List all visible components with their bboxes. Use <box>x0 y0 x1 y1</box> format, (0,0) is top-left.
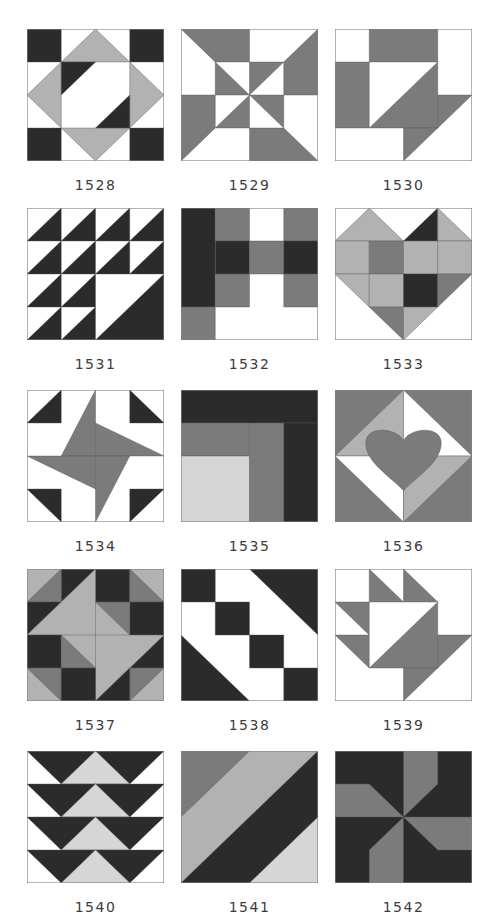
quilt-patch <box>369 29 438 62</box>
quilt-block-pattern <box>335 390 472 522</box>
quilt-block-pattern <box>181 29 318 161</box>
quilt-patch <box>27 29 61 62</box>
quilt-block-pattern <box>181 569 318 701</box>
quilt-patch <box>250 423 284 522</box>
quilt-patch <box>96 569 130 602</box>
quilt-block-pattern <box>27 569 164 701</box>
quilt-block-1530 <box>335 29 472 161</box>
quilt-block-pattern <box>335 29 472 161</box>
quilt-block-pattern <box>27 751 164 883</box>
quilt-block-pattern <box>27 390 164 522</box>
block-number-label: 1531 <box>27 356 164 372</box>
quilt-block-1541 <box>181 751 318 883</box>
quilt-block-pattern <box>181 390 318 522</box>
quilt-patch <box>215 274 249 307</box>
block-number-label: 1529 <box>181 177 318 193</box>
quilt-patch <box>130 128 164 161</box>
block-number-label: 1536 <box>335 538 472 554</box>
quilt-patch <box>61 668 95 701</box>
quilt-block-1532 <box>181 208 318 340</box>
quilt-patch <box>438 241 472 274</box>
quilt-patch <box>335 62 369 128</box>
quilt-block-1537 <box>27 569 164 701</box>
quilt-block-1528 <box>27 29 164 161</box>
quilt-patch <box>284 274 318 307</box>
block-number-label: 1542 <box>335 899 472 915</box>
quilt-block-1539 <box>335 569 472 701</box>
quilt-block-1542 <box>335 751 472 883</box>
quilt-block-pattern <box>335 208 472 340</box>
quilt-patch <box>215 241 249 274</box>
quilt-block-pattern <box>335 751 472 883</box>
quilt-block-1540 <box>27 751 164 883</box>
block-number-label: 1532 <box>181 356 318 372</box>
quilt-block-pattern <box>27 208 164 340</box>
quilt-patch <box>27 635 61 668</box>
block-number-label: 1538 <box>181 717 318 733</box>
quilt-block-1531 <box>27 208 164 340</box>
quilt-block-1534 <box>27 390 164 522</box>
quilt-block-1538 <box>181 569 318 701</box>
quilt-patch <box>181 208 215 307</box>
quilt-patch <box>181 569 215 602</box>
quilt-patch <box>404 274 438 307</box>
quilt-patch <box>181 423 250 456</box>
block-number-label: 1540 <box>27 899 164 915</box>
quilt-patch <box>250 635 284 668</box>
quilt-patch <box>181 307 215 340</box>
quilt-block-1529 <box>181 29 318 161</box>
quilt-patch <box>335 241 369 274</box>
quilt-patch <box>215 602 249 635</box>
block-number-label: 1534 <box>27 538 164 554</box>
quilt-patch <box>404 241 438 274</box>
quilt-patch <box>215 208 249 241</box>
quilt-patch <box>284 208 318 241</box>
block-number-label: 1535 <box>181 538 318 554</box>
quilt-block-pattern <box>335 569 472 701</box>
block-number-label: 1541 <box>181 899 318 915</box>
block-number-label: 1533 <box>335 356 472 372</box>
quilt-patch <box>284 668 318 701</box>
quilt-block-pattern <box>181 751 318 883</box>
block-number-label: 1530 <box>335 177 472 193</box>
block-number-label: 1539 <box>335 717 472 733</box>
block-number-label: 1537 <box>27 717 164 733</box>
quilt-patch <box>369 274 403 307</box>
block-number-label: 1528 <box>27 177 164 193</box>
quilt-patch <box>181 390 318 423</box>
quilt-block-1533 <box>335 208 472 340</box>
quilt-patch <box>181 456 250 522</box>
quilt-patch <box>250 241 284 274</box>
quilt-block-pattern <box>27 29 164 161</box>
quilt-block-pattern <box>181 208 318 340</box>
quilt-patch <box>130 602 164 635</box>
quilt-patch <box>369 241 403 274</box>
quilt-block-1536 <box>335 390 472 522</box>
quilt-block-1535 <box>181 390 318 522</box>
quilt-patch <box>284 423 318 522</box>
quilt-patch <box>130 29 164 62</box>
quilt-patch <box>284 241 318 274</box>
quilt-patch <box>27 128 61 161</box>
